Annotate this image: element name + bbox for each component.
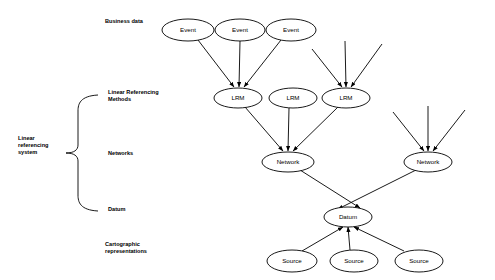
edge-source-2-to-datum-node (348, 227, 350, 250)
node-lrm-1[interactable]: LRM (214, 88, 262, 108)
edge-unlabeled-source-to-lrm-3 (345, 41, 346, 87)
node-label-network-2: Network (417, 158, 441, 165)
nodes-layer: EventEventEventLRMLRMLRMNetworkNetworkDa… (162, 19, 452, 272)
edge-source-1-to-datum-node (302, 227, 343, 251)
node-label-source-1: Source (282, 257, 302, 264)
tier-label-business-data: Business data (105, 18, 144, 24)
node-event-3[interactable]: Event (266, 19, 316, 41)
edge-unlabeled-source-to-lrm-3 (312, 49, 342, 87)
node-label-event-1: Event (180, 26, 196, 33)
node-source-3[interactable]: Source (395, 250, 443, 272)
node-event-2[interactable]: Event (215, 19, 265, 41)
node-label-source-3: Source (409, 257, 429, 264)
edge-lrm-1-to-network-1 (245, 107, 283, 151)
tier-label-cartographic-representations: Cartographicrepresentations (105, 241, 147, 254)
node-lrm-3[interactable]: LRM (322, 88, 370, 108)
edge-network-2-to-datum-node (338, 170, 416, 209)
node-source-1[interactable]: Source (267, 250, 317, 272)
edge-event-3-to-lrm-1 (244, 40, 281, 87)
edge-unlabeled-source-to-lrm-3 (351, 44, 382, 87)
node-label-network-1: Network (277, 158, 301, 165)
edge-lrm-2-to-network-1 (288, 108, 289, 151)
linear-referencing-system-brace (66, 95, 98, 211)
edge-event-2-to-lrm-1 (239, 41, 240, 87)
node-network-1[interactable]: Network (262, 152, 314, 172)
node-label-lrm-1: LRM (231, 94, 244, 101)
group-label-linear-referencing-system: Linearreferencingsystem (18, 135, 49, 155)
node-network-2[interactable]: Network (404, 152, 452, 172)
linear-referencing-diagram: EventEventEventLRMLRMLRMNetworkNetworkDa… (0, 0, 495, 280)
edge-unlabeled-source-to-network-2 (393, 112, 424, 151)
edge-unlabeled-source-to-network-2 (433, 110, 465, 151)
node-label-datum-node: Datum (339, 213, 357, 220)
edge-source-3-to-datum-node (354, 227, 404, 251)
edge-lrm-3-to-network-1 (293, 107, 338, 151)
node-datum-node[interactable]: Datum (324, 207, 372, 227)
node-event-1[interactable]: Event (162, 19, 214, 41)
node-label-event-2: Event (232, 26, 248, 33)
node-label-lrm-2: LRM (286, 94, 299, 101)
labels-layer: Business dataLinear ReferencingMethodsNe… (18, 18, 159, 254)
tier-label-linear-referencing-methods: Linear ReferencingMethods (108, 89, 159, 102)
node-source-2[interactable]: Source (330, 250, 378, 272)
tier-label-networks: Networks (108, 150, 133, 156)
edge-event-1-to-lrm-1 (198, 40, 234, 87)
tier-label-datum: Datum (108, 206, 125, 212)
node-label-event-3: Event (283, 26, 299, 33)
node-lrm-2[interactable]: LRM (269, 88, 317, 108)
diagram-canvas: EventEventEventLRMLRMLRMNetworkNetworkDa… (0, 0, 495, 280)
node-label-lrm-3: LRM (339, 94, 352, 101)
node-label-source-2: Source (344, 257, 364, 264)
brace-layer (66, 95, 98, 211)
